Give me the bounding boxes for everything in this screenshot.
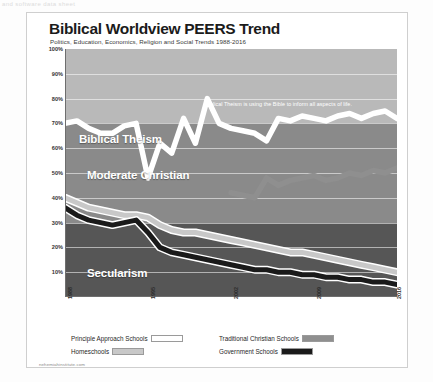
y-tick-label: 50% (52, 170, 63, 176)
y-tick-label: 70% (52, 120, 63, 126)
legend-item-principle-approach-schools: Principle Approach Schools (71, 335, 183, 342)
chart-area: 100%90%80%70%60%50%40%30%20%10% Biblical… (37, 49, 399, 313)
x-tick-label: 2009 (316, 287, 322, 299)
y-tick-label: 10% (52, 269, 63, 275)
y-tick-label: 90% (52, 71, 63, 77)
y-axis-labels: 100%90%80%70%60%50%40%30%20%10% (37, 49, 63, 297)
x-tick-label: 2016 (396, 287, 402, 299)
plot-canvas: Biblical Theism Moderate Christian Secul… (65, 49, 397, 297)
x-axis-labels: 19881995200220092016 (65, 297, 397, 319)
x-tick-label: 2002 (233, 287, 239, 299)
x-tick-label: 1995 (150, 287, 156, 299)
legend-label: Principle Approach Schools (71, 335, 148, 342)
chart-card: Biblical Worldview PEERS Trend Politics,… (26, 12, 408, 368)
series-line-traditional-christian-schools (231, 168, 397, 198)
band-label-moderate-christian: Moderate Christian (87, 169, 189, 181)
page-subtitle: Politics, Education, Economics, Religion… (50, 38, 246, 45)
legend-label: Traditional Christian Schools (219, 335, 299, 342)
page-title: Biblical Worldview PEERS Trend (49, 20, 280, 38)
top-cutoff-text: and software data sheet (0, 0, 433, 9)
legend-swatch (302, 335, 334, 342)
x-tick-label: 1988 (67, 287, 73, 299)
legend-item-traditional-christian-schools: Traditional Christian Schools (219, 335, 334, 342)
screenshot-root: and software data sheet Biblical Worldvi… (0, 0, 433, 382)
band-label-secularism: Secularism (87, 267, 147, 279)
legend-item-government-schools: Government Schools (219, 348, 313, 355)
y-tick-label: 80% (52, 96, 63, 102)
source-credit: nehemiahinstitute.com (39, 362, 85, 367)
chart-legend: Principle Approach Schools Traditional C… (71, 335, 401, 361)
chart-annotation: Biblical Theism is using the Bible to in… (205, 101, 352, 107)
y-tick-label: 60% (52, 145, 63, 151)
legend-swatch (112, 348, 144, 355)
y-tick-label: 100% (49, 46, 63, 52)
legend-swatch (281, 348, 313, 355)
y-axis-line (65, 49, 66, 297)
y-tick-label: 40% (52, 195, 63, 201)
y-tick-label: 30% (52, 220, 63, 226)
band-label-biblical-theism: Biblical Theism (79, 133, 162, 145)
y-tick-label: 20% (52, 244, 63, 250)
legend-swatch (151, 335, 183, 342)
legend-label: Homeschools (71, 348, 109, 355)
legend-item-homeschools: Homeschools (71, 348, 144, 355)
legend-label: Government Schools (219, 348, 278, 355)
